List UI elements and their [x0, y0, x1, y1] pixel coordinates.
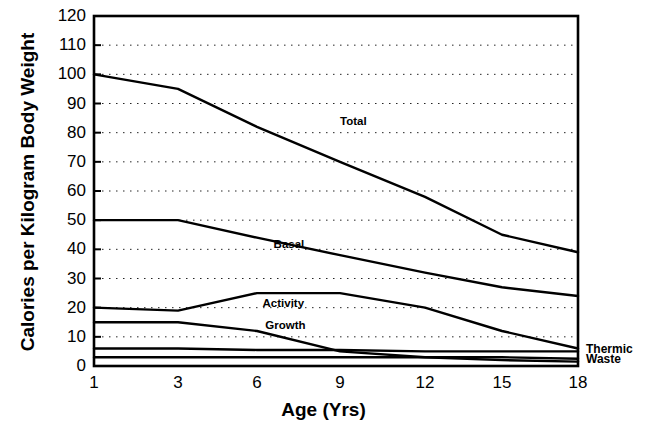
series-line-activity: [94, 293, 578, 348]
series-line-waste: [94, 357, 578, 358]
series-line-total: [94, 74, 578, 252]
plot-border: [94, 16, 578, 366]
series-line-basal: [94, 220, 578, 296]
calorie-requirement-line-chart: Calories per Kilogram Body Weight Age (Y…: [0, 0, 647, 435]
axis-frame: [94, 16, 578, 366]
series-lines: [94, 74, 578, 361]
series-line-growth: [94, 322, 578, 361]
plot-area: [0, 0, 647, 435]
series-line-thermic: [94, 349, 578, 352]
